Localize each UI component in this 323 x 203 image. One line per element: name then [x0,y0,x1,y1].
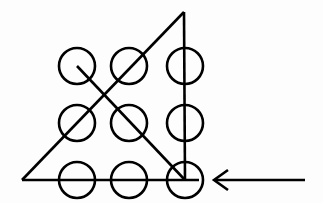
nine-dots-diagram [0,0,323,203]
figure-canvas: A three by three grid of nine open circl… [0,0,323,203]
diagram-background [0,0,323,203]
line-right-vertical [184,12,185,181]
